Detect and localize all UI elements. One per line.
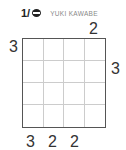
clue-bottom-2: 2 bbox=[48, 134, 57, 150]
grid-cell[interactable] bbox=[64, 39, 85, 61]
grid-cell[interactable] bbox=[23, 83, 44, 105]
grid-cell[interactable] bbox=[44, 83, 65, 105]
puzzle-grid bbox=[22, 38, 106, 128]
grid-cell[interactable] bbox=[23, 105, 44, 127]
clue-bottom-3: 2 bbox=[70, 134, 79, 150]
grid-cell[interactable] bbox=[44, 39, 65, 61]
grid-cell[interactable] bbox=[64, 61, 85, 83]
clue-right-2: 3 bbox=[111, 61, 120, 77]
puzzle-header: 1/ YUKI KAWABE bbox=[21, 6, 98, 20]
clue-top-4: 2 bbox=[89, 21, 98, 37]
grid-cell[interactable] bbox=[44, 61, 65, 83]
grid-cell[interactable] bbox=[85, 83, 106, 105]
grid-cell[interactable] bbox=[64, 83, 85, 105]
clue-bottom-1: 3 bbox=[26, 134, 35, 150]
grid-cell[interactable] bbox=[64, 105, 85, 127]
clue-left-1: 3 bbox=[9, 39, 18, 55]
grid-cell[interactable] bbox=[85, 39, 106, 61]
grid-cell[interactable] bbox=[23, 61, 44, 83]
author-name: YUKI KAWABE bbox=[50, 10, 98, 17]
puzzle-number: 1/ bbox=[21, 7, 30, 19]
ninja-icon bbox=[31, 8, 42, 18]
grid-cell[interactable] bbox=[44, 105, 65, 127]
grid-cell[interactable] bbox=[85, 105, 106, 127]
grid-cell[interactable] bbox=[85, 61, 106, 83]
grid-cell[interactable] bbox=[23, 39, 44, 61]
